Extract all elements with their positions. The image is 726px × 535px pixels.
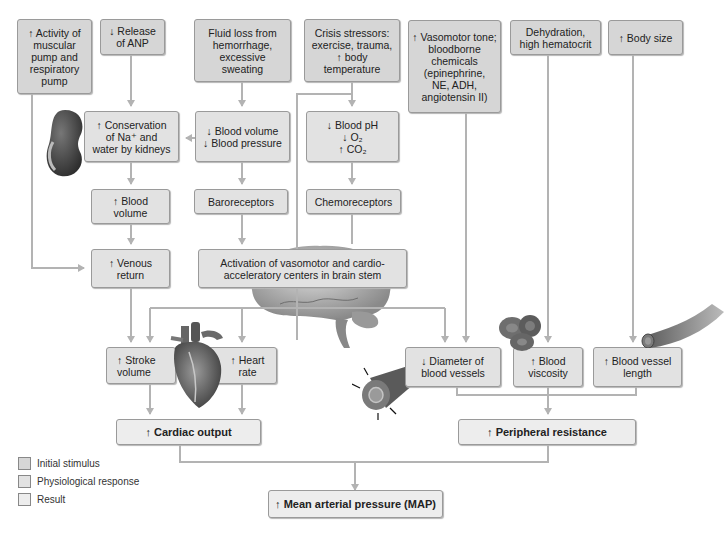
legend-label: Initial stimulus	[37, 458, 100, 469]
response-vessel-length: ↑ Blood vessel length	[593, 347, 682, 387]
response-brainstem-activation: Activation of vasomotor and cardio- acce…	[198, 249, 407, 288]
heart-icon	[165, 322, 227, 412]
legend-label: Physiological response	[37, 476, 139, 487]
legend-swatch-response	[18, 475, 31, 488]
red-blood-cells-icon	[498, 312, 546, 354]
blood-vessel-icon	[640, 300, 726, 348]
response-chemoreceptors: Chemoreceptors	[306, 189, 401, 214]
legend-swatch-stimulus	[18, 457, 31, 470]
result-mean-arterial-pressure: ↑ Mean arterial pressure (MAP)	[268, 490, 443, 518]
legend-item-physiological-response: Physiological response	[18, 472, 139, 490]
response-vessel-diameter: ↓ Diameter of blood vessels	[405, 347, 501, 387]
response-blood-ph: ↓ Blood pH ↓ O₂ ↑ CO₂	[306, 111, 399, 162]
stimulus-vasomotor-tone: ↑ Vasomotor tone; bloodborne chemicals (…	[408, 20, 501, 113]
legend-item-initial-stimulus: Initial stimulus	[18, 454, 139, 472]
legend: Initial stimulus Physiological response …	[18, 454, 139, 508]
legend-label: Result	[37, 494, 65, 505]
result-peripheral-resistance: ↑ Peripheral resistance	[458, 419, 636, 445]
response-blood-volume-pressure: ↓ Blood volume ↓ Blood pressure	[195, 111, 290, 162]
stimulus-muscular-pump: ↑ Activity of muscular pump and respirat…	[17, 19, 92, 94]
legend-item-result: Result	[18, 490, 139, 508]
stimulus-body-size: ↑ Body size	[608, 20, 683, 55]
stimulus-crisis-stressors: Crisis stressors: exercise, trauma, ↑ bo…	[304, 19, 400, 82]
stimulus-dehydration: Dehydration, high hematocrit	[510, 20, 601, 55]
legend-swatch-result	[18, 493, 31, 506]
result-cardiac-output: ↑ Cardiac output	[116, 419, 261, 445]
stimulus-release-anp: ↓ Release of ANP	[100, 19, 165, 55]
response-blood-volume: ↑ Blood volume	[91, 189, 170, 224]
stimulus-fluid-loss: Fluid loss from hemorrhage, excessive sw…	[194, 19, 291, 82]
response-conservation-kidneys: ↑ Conservation of Na⁺ and water by kidne…	[84, 111, 179, 162]
response-venous-return: ↑ Venous return	[91, 249, 170, 288]
response-baroreceptors: Baroreceptors	[194, 189, 288, 214]
kidney-icon	[45, 108, 87, 180]
